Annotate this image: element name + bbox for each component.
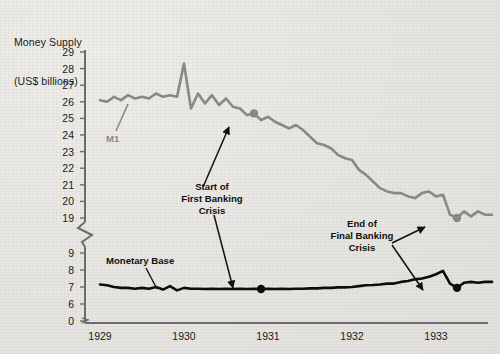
x-tick-1931: 1931 (256, 330, 280, 342)
data-point-marker-start-first-banking-crisis-monetary-base (257, 285, 265, 293)
y-tick-21: 21 (62, 179, 74, 191)
m1-leader-line (116, 104, 128, 131)
y-tick-27: 27 (62, 79, 74, 91)
annotation2-line2: Final Banking (331, 230, 394, 241)
series-label-monetary-base: Monetary Base (106, 255, 174, 266)
y-tick-6: 6 (68, 298, 74, 310)
y-tick-26: 26 (62, 96, 74, 108)
y-tick-28: 28 (62, 63, 74, 75)
y-tick-19: 19 (62, 212, 74, 224)
x-tick-1929: 1929 (88, 330, 112, 342)
y-tick-9: 9 (68, 247, 74, 259)
annotation1-line1: Start of (195, 181, 229, 192)
annotation2-arrow-to-m1 (392, 227, 425, 243)
y-axis-break-zigzag (78, 222, 92, 247)
annotation1-arrow-to-base (214, 215, 233, 288)
series-label-m1: M1 (106, 133, 120, 144)
data-point-marker-start-first-banking-crisis-m1 (250, 109, 258, 117)
annotation2-line1: End of (347, 218, 378, 229)
series-line-monetary-base (100, 271, 492, 291)
x-tick-1933: 1933 (424, 330, 448, 342)
series-line-m1 (100, 64, 492, 218)
x-tick-1930: 1930 (172, 330, 196, 342)
data-point-markers (250, 109, 461, 293)
y-tick-22: 22 (62, 162, 74, 174)
x-tick-1932: 1932 (340, 330, 364, 342)
chart-container: Money Supply (US$ billions) (0, 0, 500, 354)
annotation1-line2: First Banking (181, 193, 242, 204)
monetary-base-leader-line (146, 268, 157, 289)
y-tick-29: 29 (62, 46, 74, 58)
y-tick-7: 7 (68, 281, 74, 293)
y-tick-0: 0 (68, 315, 74, 327)
y-tick-23: 23 (62, 146, 74, 158)
y-tick-8: 8 (68, 264, 74, 276)
y-tick-25: 25 (62, 112, 74, 124)
annotation2-line3: Crisis (349, 242, 376, 253)
y-tick-20: 20 (62, 195, 74, 207)
money-supply-line-chart: 29 28 27 26 25 24 23 22 21 20 19 9 8 7 6… (0, 0, 500, 354)
data-point-marker-end-final-banking-crisis-m1 (453, 214, 461, 222)
data-point-marker-end-final-banking-crisis-monetary-base (453, 284, 461, 292)
y-tick-24: 24 (62, 129, 74, 141)
annotation1-arrow-to-m1 (203, 127, 229, 187)
annotation1-line3: Crisis (199, 205, 226, 216)
